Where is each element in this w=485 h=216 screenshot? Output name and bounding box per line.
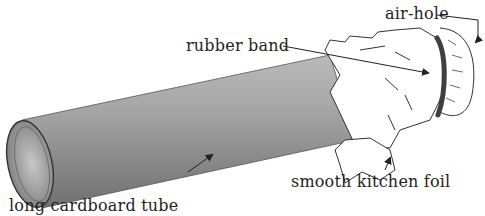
label-rubber-band: rubber band: [186, 36, 289, 55]
label-smooth-kitchen-foil: smooth kitchen foil: [291, 172, 450, 191]
kitchen-foil: [325, 28, 445, 183]
label-long-cardboard-tube: long cardboard tube: [9, 196, 178, 215]
diagram: air-hole rubber band smooth kitchen foil…: [0, 0, 485, 216]
label-air-hole: air-hole: [385, 4, 449, 23]
